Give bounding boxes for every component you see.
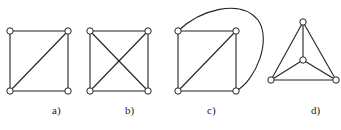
graph-a xyxy=(7,28,71,94)
vertex xyxy=(87,28,93,34)
graph-b xyxy=(87,28,151,94)
graph-d xyxy=(268,19,339,83)
label-d: d) xyxy=(311,104,320,116)
vertex xyxy=(7,28,13,34)
label-b: b) xyxy=(125,104,134,116)
vertex xyxy=(268,77,274,83)
edge xyxy=(303,60,336,80)
edge xyxy=(10,31,68,91)
edge xyxy=(271,22,303,80)
edge xyxy=(178,31,236,91)
vertex xyxy=(233,28,239,34)
vertex xyxy=(65,28,71,34)
vertex xyxy=(333,77,339,83)
vertex xyxy=(87,88,93,94)
vertex xyxy=(175,88,181,94)
edge xyxy=(303,22,336,80)
label-a: a) xyxy=(52,104,61,116)
vertex xyxy=(300,19,306,25)
vertex xyxy=(175,28,181,34)
vertex xyxy=(233,88,239,94)
vertex xyxy=(300,57,306,63)
curved-edge xyxy=(178,8,263,91)
graph-c xyxy=(175,8,263,94)
vertex xyxy=(145,28,151,34)
vertex xyxy=(65,88,71,94)
vertex xyxy=(7,88,13,94)
vertex xyxy=(145,88,151,94)
label-c: c) xyxy=(207,104,216,116)
edge xyxy=(271,60,303,80)
